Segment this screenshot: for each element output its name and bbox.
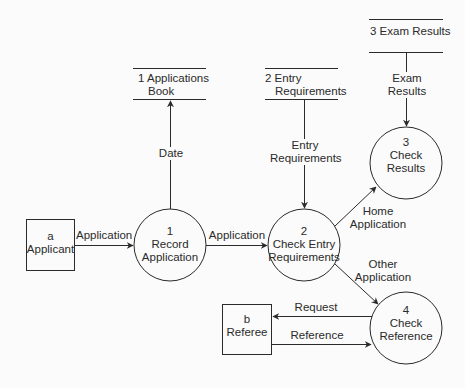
process-3-line2: Results xyxy=(370,162,442,175)
entity-referee-label: b Referee xyxy=(222,313,272,339)
flow-label-application-2: Application xyxy=(207,229,267,242)
process-1-label: 1 Record Application xyxy=(134,225,206,264)
flow-label-exam-results: Exam Results xyxy=(386,72,428,98)
process-2-line1: Check Entry xyxy=(268,238,340,251)
process-3-number: 3 xyxy=(370,136,442,149)
process-4-label: 4 Check Reference xyxy=(370,304,442,343)
flow-label-date: Date xyxy=(155,147,187,160)
flow-label-entry-requirements-line1: Entry xyxy=(270,139,340,152)
flow-label-request: Request xyxy=(291,301,341,314)
flow-label-entry-requirements-line2: Requirements xyxy=(270,152,340,165)
process-2-line2: Requirements xyxy=(268,251,340,264)
process-2-label: 2 Check Entry Requirements xyxy=(268,225,340,264)
flow-label-home-application: Home Application xyxy=(349,205,407,231)
flow-label-request-text: Request xyxy=(295,301,338,313)
datastore-3-line1: 3 Exam Results xyxy=(370,25,451,38)
datastore-2-line2: Requirements xyxy=(265,85,347,98)
process-2-number: 2 xyxy=(268,225,340,238)
datastore-1-label: 1 Applications Book xyxy=(138,72,209,98)
flow-label-exam-results-line1: Exam xyxy=(386,72,428,85)
entity-referee-name: Referee xyxy=(222,326,272,339)
process-3-label: 3 Check Results xyxy=(370,136,442,175)
flow-label-entry-requirements: Entry Requirements xyxy=(270,139,340,165)
entity-applicant-label: a Applicant xyxy=(26,230,75,256)
entity-applicant-id: a xyxy=(26,230,75,243)
flow-label-home-application-line1: Home xyxy=(349,205,407,218)
process-4-number: 4 xyxy=(370,304,442,317)
datastore-3-label: 3 Exam Results xyxy=(370,25,451,38)
flow-label-other-application: Other Application xyxy=(354,258,412,284)
flow-label-other-application-line1: Other xyxy=(354,258,412,271)
process-4-line2: Reference xyxy=(370,330,442,343)
process-1-line1: Record xyxy=(134,238,206,251)
datastore-1-line1: 1 Applications xyxy=(138,72,209,85)
process-1-line2: Application xyxy=(134,251,206,264)
process-4-line1: Check xyxy=(370,317,442,330)
flow-label-application-2-text: Application xyxy=(209,229,265,241)
flow-label-reference: Reference xyxy=(286,329,348,342)
datastore-1-line2: Book xyxy=(138,85,209,98)
process-3-line1: Check xyxy=(370,149,442,162)
flow-label-reference-text: Reference xyxy=(290,329,343,341)
datastore-2-label: 2 Entry Requirements xyxy=(265,72,347,98)
process-1-number: 1 xyxy=(134,225,206,238)
flow-label-home-application-line2: Application xyxy=(349,218,407,231)
entity-referee-id: b xyxy=(222,313,272,326)
flow-label-application-1-text: Application xyxy=(76,229,132,241)
datastore-2-line1: 2 Entry xyxy=(265,72,347,85)
flow-label-other-application-line2: Application xyxy=(354,271,412,284)
flow-label-exam-results-line2: Results xyxy=(386,85,428,98)
entity-applicant-name: Applicant xyxy=(26,243,75,256)
flow-label-application-1: Application xyxy=(76,229,132,242)
flow-label-date-text: Date xyxy=(159,147,183,159)
